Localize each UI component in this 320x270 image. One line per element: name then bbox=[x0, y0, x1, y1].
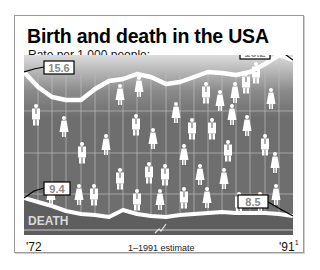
svg-text:16.2: 16.2 bbox=[244, 55, 265, 59]
x-axis-end-footnote-marker: 1 bbox=[295, 239, 299, 246]
svg-text:9.4: 9.4 bbox=[49, 183, 65, 195]
plot-area: DEATH 15.6 16.2 9.4 8.5 bbox=[24, 55, 293, 235]
x-axis-start-label: '72 bbox=[26, 240, 42, 254]
x-axis-end-year: '91 bbox=[279, 240, 295, 254]
death-series-label: DEATH bbox=[28, 214, 68, 228]
footnote: 1–1991 estimate bbox=[128, 243, 195, 253]
svg-text:15.6: 15.6 bbox=[48, 62, 69, 74]
x-axis-end-label: '911 bbox=[279, 240, 299, 254]
svg-text:8.5: 8.5 bbox=[245, 196, 260, 208]
chart-title: Birth and death in the USA bbox=[27, 25, 269, 48]
